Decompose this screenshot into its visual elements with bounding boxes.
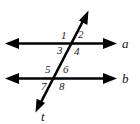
angle-label-4: 4 [74, 46, 80, 57]
line-label-t: t [41, 110, 45, 123]
angle-label-2: 2 [78, 29, 84, 40]
angle-label-6: 6 [63, 64, 69, 75]
line-t-top-arrowhead [79, 11, 89, 25]
line-b-left-arrowhead [5, 73, 19, 84]
geometry-figure: 1 2 3 4 5 6 7 8 a b t [0, 0, 140, 124]
angle-label-3: 3 [57, 45, 63, 56]
angle-label-1: 1 [61, 30, 67, 41]
line-label-b: b [122, 72, 129, 85]
line-t-group [36, 11, 89, 113]
geometry-canvas [0, 0, 140, 124]
line-b-right-arrowhead [103, 73, 117, 84]
angle-label-5: 5 [45, 64, 51, 75]
line-a-right-arrowhead [103, 38, 117, 49]
angle-label-8: 8 [59, 81, 65, 92]
line-a-left-arrowhead [5, 38, 19, 49]
angle-label-7: 7 [41, 81, 47, 92]
line-label-a: a [122, 37, 129, 50]
